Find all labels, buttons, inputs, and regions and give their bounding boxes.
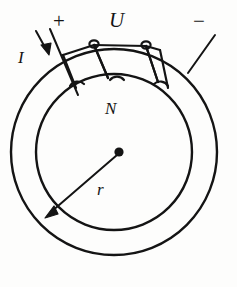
- outer-circle: [11, 49, 217, 255]
- negative-lead-wire: [188, 35, 215, 73]
- voltage-label: U: [109, 8, 124, 33]
- winding-turn: [63, 45, 108, 88]
- toroid-figure: + U − I N r: [0, 0, 237, 287]
- negative-terminal-label: −: [193, 9, 205, 34]
- toroid-core-circles: [11, 49, 217, 255]
- current-arrow: [36, 31, 51, 55]
- radius-arrow: [45, 155, 117, 218]
- positive-lead-wire: [50, 29, 78, 95]
- radius-label: r: [97, 180, 104, 200]
- turns-label: N: [105, 99, 116, 119]
- current-label: I: [18, 48, 24, 68]
- inner-circle: [36, 74, 192, 230]
- positive-terminal-label: +: [53, 9, 65, 34]
- toroid-drawing: [0, 0, 237, 287]
